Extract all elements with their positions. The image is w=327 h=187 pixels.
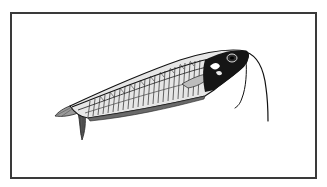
eye — [227, 54, 237, 62]
glass-catfish-illustration — [0, 0, 327, 187]
barbel-long — [246, 52, 268, 121]
